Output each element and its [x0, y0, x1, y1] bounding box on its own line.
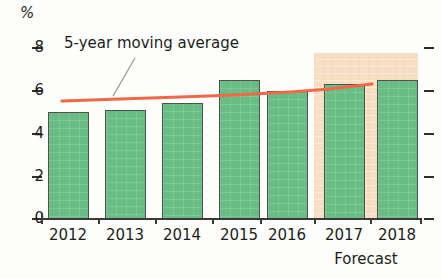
x-label-2012: 2012 — [38, 228, 98, 243]
moving-average-label: 5-year moving average — [64, 36, 239, 51]
x-tick-4 — [260, 219, 262, 224]
moving-average-line — [62, 84, 372, 101]
x-tick-2 — [155, 219, 157, 224]
annotation-leader-line — [113, 58, 135, 96]
x-tick-0 — [41, 219, 43, 224]
forecast-caption: Forecast — [312, 252, 420, 267]
x-label-2014: 2014 — [152, 228, 212, 243]
x-label-2013: 2013 — [95, 228, 155, 243]
x-tick-1 — [98, 219, 100, 224]
x-tick-5 — [314, 219, 316, 224]
x-label-2018: 2018 — [367, 228, 427, 243]
x-label-2016: 2016 — [257, 228, 317, 243]
x-tick-7 — [420, 219, 422, 224]
x-label-2017: 2017 — [314, 228, 374, 243]
bar-chart: % 8 6 4 2 0 5-year moving average 2012 2… — [0, 0, 442, 278]
x-tick-6 — [370, 219, 372, 224]
x-tick-3 — [212, 219, 214, 224]
